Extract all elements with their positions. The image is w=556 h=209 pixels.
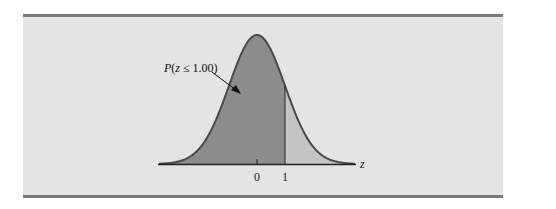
tick-label-1: 1 [282, 170, 288, 184]
bottom-border-rule [23, 195, 503, 198]
axis-label-z: z [359, 157, 365, 171]
tick-label-0: 0 [254, 170, 260, 184]
normal-distribution-figure: 0 1 z P(z ≤ 1.00) [0, 0, 556, 209]
probability-annotation: P(z ≤ 1.00) [163, 61, 218, 75]
top-border-rule [23, 14, 503, 17]
chart-svg: 0 1 z P(z ≤ 1.00) [0, 0, 556, 209]
